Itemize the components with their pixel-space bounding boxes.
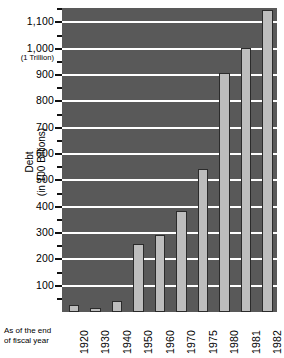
bar-1982 [262, 10, 273, 312]
y-tick-major [55, 153, 62, 155]
bar-1980 [219, 73, 230, 312]
bar-1950 [133, 244, 144, 312]
y-tick-label-800: 800 [36, 95, 54, 106]
x-tick-label-1960: 1960 [165, 308, 176, 354]
plot-area [62, 8, 277, 312]
y-tick-major [55, 21, 62, 23]
y-tick-major [55, 100, 62, 102]
fiscal-year-note: As of the end of fiscal year [4, 326, 51, 345]
y-tick-label-500: 500 [36, 174, 54, 185]
y-tick-label-1000: 1,000 [27, 43, 54, 54]
y-axis-title-line1: Debt [24, 151, 35, 172]
bar-1960 [155, 235, 166, 312]
y-tick-major [55, 127, 62, 129]
y-tick-label-200: 200 [36, 253, 54, 264]
bar-1975 [198, 169, 209, 312]
x-tick-label-1950: 1950 [143, 308, 154, 354]
y-tick-label-600: 600 [36, 148, 54, 159]
bar-1970 [176, 211, 187, 312]
y-tick-label-700: 700 [36, 122, 54, 133]
x-tick-label-1930: 1930 [100, 308, 111, 354]
x-tick-label-1920: 1920 [79, 308, 90, 354]
one-trillion-annotation: (1 Trillion) [21, 54, 54, 62]
bar-1920 [69, 305, 80, 312]
fiscal-year-note-line2: of fiscal year [4, 336, 51, 346]
y-tick-label-1100: 1,100 [27, 16, 54, 27]
y-tick-major [55, 74, 62, 76]
fiscal-year-note-line1: As of the end [4, 326, 51, 336]
y-tick-label-300: 300 [36, 227, 54, 238]
bar-1930 [90, 308, 101, 312]
y-tick-major [55, 285, 62, 287]
x-tick-label-1975: 1975 [208, 308, 219, 354]
x-tick-label-1982: 1982 [272, 308, 283, 354]
debt-bar-chart: Debt (in 100 Billions) 1,1001,0009008007… [0, 0, 284, 358]
y-tick-label-100: 100 [36, 280, 54, 291]
gridline-1100 [62, 21, 277, 23]
y-tick-major [55, 232, 62, 234]
x-tick-label-1981: 1981 [251, 308, 262, 354]
bar-1940 [112, 301, 123, 312]
x-tick-label-1940: 1940 [122, 308, 133, 354]
y-tick-major [55, 258, 62, 260]
y-tick-major [55, 206, 62, 208]
y-tick-label-900: 900 [36, 69, 54, 80]
x-tick-label-1970: 1970 [186, 308, 197, 354]
x-tick-label-1980: 1980 [229, 308, 240, 354]
y-tick-label-400: 400 [36, 201, 54, 212]
y-tick-major [55, 48, 62, 50]
y-tick-major [55, 179, 62, 181]
bar-1981 [241, 48, 252, 312]
